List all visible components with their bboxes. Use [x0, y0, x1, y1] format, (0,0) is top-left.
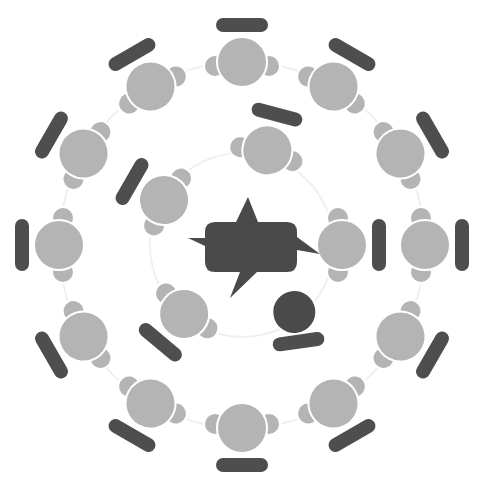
- desk-icon: [15, 219, 29, 271]
- outer-person-8: [96, 29, 196, 127]
- diagram-canvas: [0, 0, 482, 488]
- seating-diagram: [0, 0, 482, 488]
- head-icon: [400, 220, 450, 270]
- inner-person-2: [317, 207, 386, 283]
- outer-person-4: [96, 363, 196, 461]
- head-icon: [217, 403, 267, 453]
- head-icon: [317, 220, 367, 270]
- inner-person-3: [127, 270, 230, 372]
- inner-person-4: [266, 287, 326, 353]
- outer-person-1: [360, 291, 458, 391]
- head-icon: [34, 220, 84, 270]
- outer-person-6: [15, 207, 84, 283]
- desk-icon: [216, 458, 268, 472]
- speech-bubble-icon: [188, 197, 320, 298]
- outer-person-5: [26, 291, 124, 391]
- inner-person-0: [224, 98, 315, 184]
- outer-person-0: [400, 207, 469, 283]
- desk-icon: [216, 18, 268, 32]
- outer-person-11: [360, 99, 458, 199]
- outer-person-10: [288, 29, 388, 127]
- desk-icon: [455, 219, 469, 271]
- outer-person-7: [26, 99, 124, 199]
- inner-person-1: [107, 145, 205, 245]
- outer-person-2: [288, 363, 388, 461]
- outer-person-3: [204, 403, 280, 472]
- desk-icon: [372, 219, 386, 271]
- desk-icon: [250, 101, 304, 128]
- head-icon: [217, 37, 267, 87]
- outer-person-9: [204, 18, 280, 87]
